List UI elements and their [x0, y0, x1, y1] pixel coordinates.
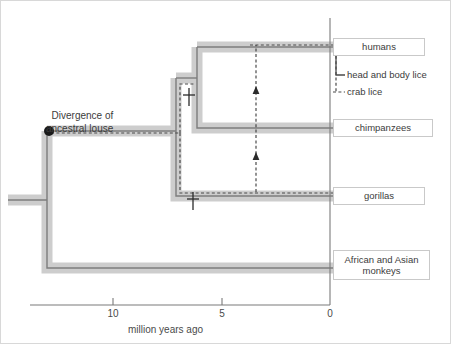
lice-human-chimp-split: [197, 47, 340, 128]
legend-item-crab-lice-text: crab lice: [347, 86, 382, 97]
axis-tick-label-5: 5: [210, 308, 234, 320]
taxon-label-humans-text: humans: [362, 41, 396, 53]
divergence-annotation-text: Divergence of ancestral louse: [46, 110, 113, 134]
taxon-label-monkeys[interactable]: African and Asian monkeys: [333, 250, 430, 280]
axis-tick-label-5-text: 5: [219, 308, 225, 319]
axis-title-text: million years ago: [128, 324, 203, 335]
taxon-label-monkeys-text: African and Asian monkeys: [345, 254, 419, 277]
taxon-label-humans[interactable]: humans: [333, 38, 425, 56]
legend-item-head-body-lice[interactable]: head and body lice: [347, 69, 427, 81]
human-chimp-split-band: [197, 47, 340, 128]
legend-item-head-body-lice-text: head and body lice: [347, 69, 427, 80]
crab-gorilla-path: [180, 133, 340, 193]
axis-tick-label-0-text: 0: [327, 308, 333, 319]
divergence-annotation: Divergence of ancestral louse: [46, 96, 113, 135]
arrowhead-upper: [253, 86, 260, 94]
axis-tick-label-0: 0: [318, 308, 342, 320]
arrowhead-lower: [253, 152, 260, 160]
axis-title: million years ago: [128, 324, 203, 336]
taxon-label-gorillas-text: gorillas: [364, 190, 394, 202]
branch-bands: [8, 47, 340, 268]
legend-item-crab-lice[interactable]: crab lice: [347, 86, 382, 98]
time-axis: [30, 298, 330, 305]
taxon-label-chimpanzees[interactable]: chimpanzees: [333, 119, 433, 137]
axis-tick-label-10: 10: [101, 308, 125, 320]
taxon-label-chimpanzees-text: chimpanzees: [355, 122, 411, 134]
taxon-label-gorillas[interactable]: gorillas: [333, 187, 425, 205]
axis-tick-label-10-text: 10: [107, 308, 118, 319]
